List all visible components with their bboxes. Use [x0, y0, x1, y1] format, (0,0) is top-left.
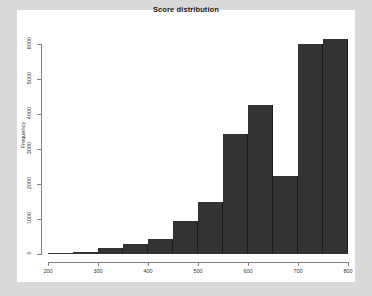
y-axis-tick [37, 219, 41, 220]
histogram-bar [248, 105, 273, 254]
histogram-bar [298, 44, 323, 254]
y-axis-tick [37, 184, 41, 185]
y-axis-tick [37, 254, 41, 255]
histogram-bar [148, 239, 173, 254]
x-axis-tick-label: 300 [86, 268, 110, 274]
x-axis-tick [198, 262, 199, 266]
histogram-bar [198, 202, 223, 255]
histogram-bar [173, 221, 198, 254]
x-axis-tick [98, 262, 99, 266]
x-axis-tick-label: 400 [136, 268, 160, 274]
y-axis-tick-label: 3000 [26, 130, 32, 166]
x-axis-tick-label: 700 [286, 268, 310, 274]
x-axis-tick-label: 500 [186, 268, 210, 274]
x-axis-tick-label: 200 [36, 268, 60, 274]
y-axis-tick [37, 79, 41, 80]
x-axis-tick [148, 262, 149, 266]
screenshot-root: Score distribution Frequency 01000200030… [0, 0, 372, 296]
x-axis-tick [48, 262, 49, 266]
x-axis-tick-label: 600 [236, 268, 260, 274]
y-axis-tick-label: 4000 [26, 95, 32, 131]
x-axis-tick [298, 262, 299, 266]
y-axis-tick-label: 1000 [26, 200, 32, 236]
y-axis-tick [37, 114, 41, 115]
y-axis-tick-label: 6000 [26, 25, 32, 61]
y-axis-line [41, 44, 42, 255]
histogram-bar [323, 39, 348, 254]
x-axis-tick-label: 800 [336, 268, 360, 274]
x-axis-tick [248, 262, 249, 266]
histogram-bar [223, 134, 248, 254]
histogram-bar [48, 253, 73, 254]
histogram-bar [273, 176, 298, 254]
histogram-bar [73, 252, 98, 254]
y-axis-tick [37, 44, 41, 45]
y-axis-tick [37, 149, 41, 150]
histogram-bar [98, 248, 123, 254]
y-axis-tick-label: 5000 [26, 60, 32, 96]
x-axis-tick [348, 262, 349, 266]
y-axis-tick-label: 0 [26, 235, 32, 271]
plot-area: 0100020003000400050006000200300400500600… [0, 0, 372, 296]
y-axis-tick-label: 2000 [26, 165, 32, 201]
histogram-bar [123, 244, 148, 255]
